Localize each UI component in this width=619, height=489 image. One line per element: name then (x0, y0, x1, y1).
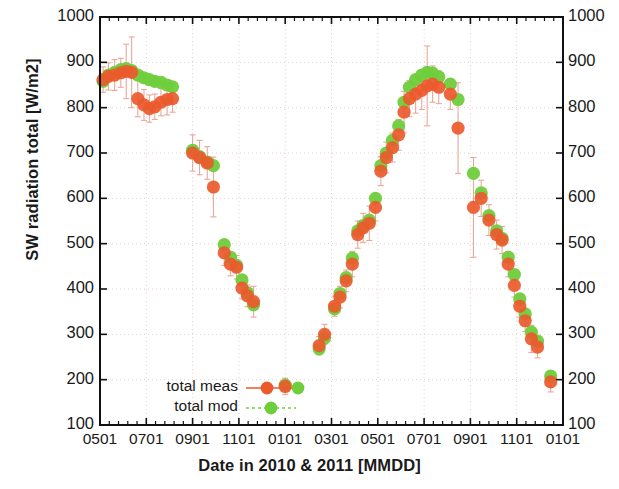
y-tick-label-right: 900 (568, 51, 619, 70)
y-tick-label-left: 1000 (34, 6, 94, 25)
y-tick-label-left: 800 (34, 97, 94, 116)
y-tick-label-left: 500 (34, 233, 94, 252)
y-tick-label-right: 800 (568, 97, 619, 116)
series-total-mod (96, 62, 557, 392)
y-tick-label-right: 400 (568, 278, 619, 297)
legend-symbols (246, 382, 304, 415)
y-tick-label-right: 600 (568, 187, 619, 206)
y-tick-label-right: 200 (568, 369, 619, 388)
y-tick-label-right: 500 (568, 233, 619, 252)
x-tick-label: 0101 (535, 430, 591, 448)
y-tick-label-left: 300 (34, 323, 94, 342)
y-tick-label-right: 700 (568, 142, 619, 161)
y-tick-label-left: 400 (34, 278, 94, 297)
y-tick-label-left: 700 (34, 142, 94, 161)
y-tick-label-right: 300 (568, 323, 619, 342)
legend-label: total meas (118, 377, 238, 395)
legend-label: total mod (118, 397, 238, 415)
y-tick-label-left: 900 (34, 51, 94, 70)
y-tick-label-left: 600 (34, 187, 94, 206)
y-tick-label-left: 200 (34, 369, 94, 388)
chart-figure: SW radiation total [W/m2] Date in 2010 &… (0, 0, 619, 489)
y-tick-label-right: 1000 (568, 6, 619, 25)
